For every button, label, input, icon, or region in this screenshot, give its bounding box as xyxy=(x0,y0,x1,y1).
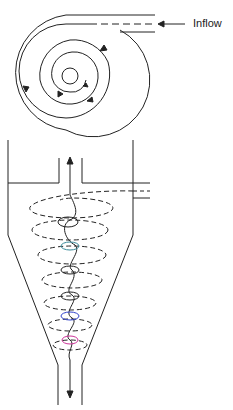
top-view-spiral xyxy=(16,15,155,137)
inflow-arrow xyxy=(158,21,185,27)
cyclone-diagram xyxy=(0,0,233,410)
inflow-label: Inflow xyxy=(193,17,222,29)
inner-vortex xyxy=(58,157,79,398)
outer-vortex xyxy=(30,191,133,350)
